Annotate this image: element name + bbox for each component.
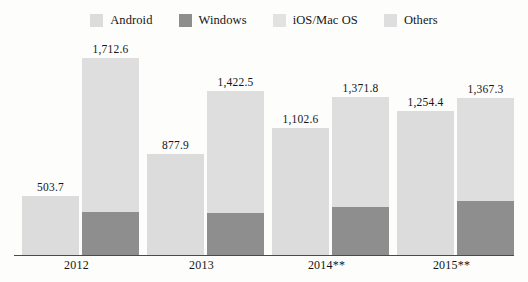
legend-swatch-ios-macos-icon	[273, 14, 286, 27]
legend-label-windows: Windows	[199, 13, 247, 28]
legend-swatch-android-icon	[90, 14, 103, 27]
bar-2013-android[interactable]	[147, 154, 204, 255]
legend-item-others[interactable]: Others	[384, 13, 438, 28]
bar-2015-stacked[interactable]	[457, 98, 514, 255]
bar-value-2012-android: 503.7	[37, 181, 64, 193]
bar-2015-android[interactable]	[397, 111, 454, 255]
bar-value-2013-stacked: 1,422.5	[218, 76, 254, 88]
legend-label-others: Others	[404, 13, 438, 28]
bar-segment-android	[22, 196, 79, 255]
legend-swatch-windows-icon	[179, 14, 192, 27]
bar-2014-stacked[interactable]	[332, 97, 389, 255]
bar-value-2013-android: 877.9	[162, 139, 189, 151]
bar-group-2012: 503.7 1,712.6	[14, 34, 139, 255]
bar-segment-others	[457, 98, 514, 201]
chart-figure: Android Windows iOS/Mac OS Others 503.7	[0, 0, 528, 282]
legend-swatch-others-icon	[384, 14, 397, 27]
chart-legend: Android Windows iOS/Mac OS Others	[0, 9, 528, 31]
bar-segment-windows	[332, 207, 389, 255]
x-axis-tick-2012: 2012	[14, 258, 139, 273]
bar-2014-android[interactable]	[272, 128, 329, 255]
legend-item-android[interactable]: Android	[90, 13, 152, 28]
bar-2012-stacked[interactable]	[82, 58, 139, 255]
bar-group-2015: 1,254.4 1,367.3	[389, 34, 514, 255]
bar-2012-android[interactable]	[22, 196, 79, 255]
x-axis-labels: 2012 2013 2014** 2015**	[0, 258, 528, 280]
bar-value-2012-stacked: 1,712.6	[93, 43, 129, 55]
bar-value-2014-stacked: 1,371.8	[343, 82, 379, 94]
x-axis-tick-2013: 2013	[139, 258, 264, 273]
bar-segment-android	[272, 128, 329, 255]
bar-segment-windows	[207, 213, 264, 255]
bar-2013-stacked[interactable]	[207, 91, 264, 255]
legend-label-ios-macos: iOS/Mac OS	[293, 13, 358, 28]
x-axis-tick-2015: 2015**	[389, 258, 514, 273]
bar-group-2014: 1,102.6 1,371.8	[264, 34, 389, 255]
bar-group-2013: 877.9 1,422.5	[139, 34, 264, 255]
bar-segment-android	[397, 111, 454, 255]
legend-item-windows[interactable]: Windows	[179, 13, 247, 28]
x-axis-baseline	[14, 255, 514, 256]
x-axis-tick-2014: 2014**	[264, 258, 389, 273]
bar-value-2015-android: 1,254.4	[408, 96, 444, 108]
legend-item-ios-macos[interactable]: iOS/Mac OS	[273, 13, 358, 28]
bar-segment-others	[207, 91, 264, 213]
legend-label-android: Android	[110, 13, 152, 28]
bar-value-2015-stacked: 1,367.3	[468, 83, 504, 95]
plot-area: 503.7 1,712.6 877.9	[0, 34, 528, 256]
bar-segment-windows	[82, 212, 139, 255]
bar-segment-others	[332, 97, 389, 207]
bar-segment-android	[147, 154, 204, 255]
bar-segment-others	[82, 58, 139, 212]
bar-segment-windows	[457, 201, 514, 255]
bar-value-2014-android: 1,102.6	[283, 113, 319, 125]
